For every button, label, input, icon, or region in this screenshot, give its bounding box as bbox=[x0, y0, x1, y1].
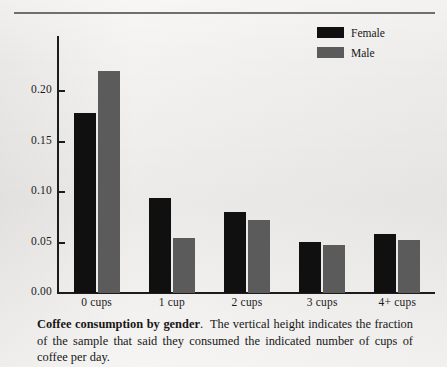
y-axis-tick-label: 0.10 bbox=[10, 184, 52, 196]
bar-female-1 bbox=[149, 198, 171, 293]
legend-label-female: Female bbox=[351, 27, 385, 39]
legend-entry-male: Male bbox=[317, 44, 427, 61]
x-axis-tick-label: 4+ cups bbox=[360, 296, 434, 308]
y-axis-tick-label: 0.20 bbox=[10, 83, 52, 95]
y-axis-tick bbox=[59, 141, 65, 143]
bar-male-0 bbox=[98, 71, 120, 293]
x-axis-tick-label: 1 cup bbox=[135, 296, 209, 308]
y-axis-tick bbox=[59, 90, 65, 92]
caption-period: . bbox=[200, 317, 203, 331]
y-axis-tick bbox=[59, 242, 65, 244]
y-axis-tick-label: 0.15 bbox=[10, 134, 52, 146]
legend-entry-female: Female bbox=[317, 24, 427, 41]
figure-page: 0.000.050.100.150.20 0 cups1 cup2 cups3 … bbox=[0, 0, 447, 367]
x-axis-tick-label: 0 cups bbox=[60, 296, 134, 308]
bar-female-4 bbox=[374, 234, 396, 293]
top-horizontal-rule bbox=[14, 12, 435, 14]
caption-title: Coffee consumption by gender bbox=[37, 317, 200, 331]
bar-male-4 bbox=[398, 240, 420, 293]
legend-swatch-male-icon bbox=[317, 47, 344, 58]
y-axis-tick bbox=[59, 292, 65, 294]
bar-male-3 bbox=[323, 245, 345, 293]
y-axis-tick-label: 0.00 bbox=[10, 285, 52, 297]
legend-swatch-female-icon bbox=[317, 27, 344, 38]
x-axis-tick-label: 2 cups bbox=[210, 296, 284, 308]
bar-male-2 bbox=[248, 220, 270, 293]
bar-male-1 bbox=[173, 238, 195, 293]
legend-label-male: Male bbox=[351, 47, 375, 59]
chart-legend: Female Male bbox=[317, 24, 427, 64]
bar-female-3 bbox=[299, 242, 321, 293]
y-axis-line bbox=[57, 36, 59, 293]
bar-female-2 bbox=[224, 212, 246, 293]
figure-caption: Coffee consumption by gender.The vertica… bbox=[37, 316, 413, 366]
bar-female-0 bbox=[74, 113, 96, 293]
y-axis-tick-label: 0.05 bbox=[10, 235, 52, 247]
x-axis-tick-label: 3 cups bbox=[285, 296, 359, 308]
y-axis-tick bbox=[59, 191, 65, 193]
